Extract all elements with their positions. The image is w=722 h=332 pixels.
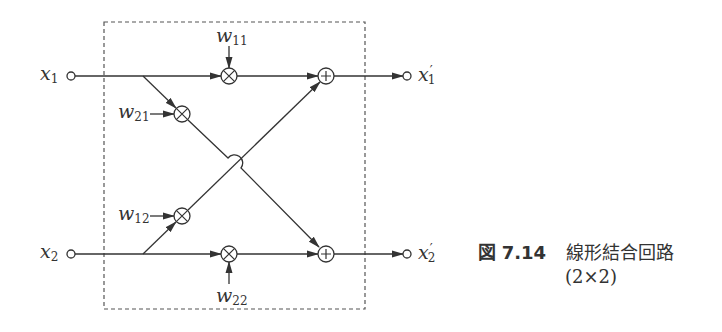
output-terminal-x2-prime	[403, 250, 411, 258]
caption-prefix: 図	[478, 242, 496, 263]
input-subscript: 1	[51, 72, 59, 86]
weight-var: w	[118, 100, 134, 122]
weight-subscript: 22	[232, 294, 247, 308]
output-label-x2-prime: x′2	[418, 242, 435, 264]
weight-label-w11: w11	[216, 26, 248, 47]
input-terminal-x1	[67, 72, 75, 80]
figure-caption: 図 7.14 線形結合回路	[478, 244, 674, 262]
output-terminal-x1-prime	[403, 72, 411, 80]
weight-var: w	[216, 24, 232, 46]
caption-subtitle: (2×2)	[565, 268, 617, 286]
multiplier-w21-node	[174, 106, 190, 122]
x2-branch-to-w12-multiplier	[143, 222, 176, 254]
weight-label-w22: w22	[216, 286, 248, 307]
w12-multiplier-to-adder1-line	[188, 82, 320, 210]
input-label-x2: x2	[40, 242, 58, 263]
caption-title: 線形結合回路	[566, 242, 674, 263]
adder-1-node	[318, 68, 334, 84]
input-label-x1: x1	[40, 64, 58, 85]
w21-multiplier-to-adder2-path	[188, 120, 319, 247]
input-subscript: 2	[51, 250, 59, 264]
output-subscript: 1	[428, 73, 436, 87]
input-var: x	[40, 240, 51, 262]
multiplier-w11-node	[221, 68, 237, 84]
input-terminal-x2	[67, 250, 75, 258]
input-var: x	[40, 62, 51, 84]
weight-subscript: 11	[232, 34, 247, 48]
weight-subscript: 12	[134, 212, 149, 226]
weight-label-w12: w12	[118, 204, 150, 225]
multiplier-w22-node	[221, 246, 237, 262]
weight-subscript: 21	[134, 110, 149, 124]
multiplier-w12-node	[174, 208, 190, 224]
weight-var: w	[216, 284, 232, 306]
adder-2-node	[318, 246, 334, 262]
output-label-x1-prime: x′1	[418, 64, 435, 86]
caption-number: 7.14	[502, 242, 546, 263]
weight-var: w	[118, 202, 134, 224]
output-subscript: 2	[428, 251, 436, 265]
weight-label-w21: w21	[118, 102, 150, 123]
